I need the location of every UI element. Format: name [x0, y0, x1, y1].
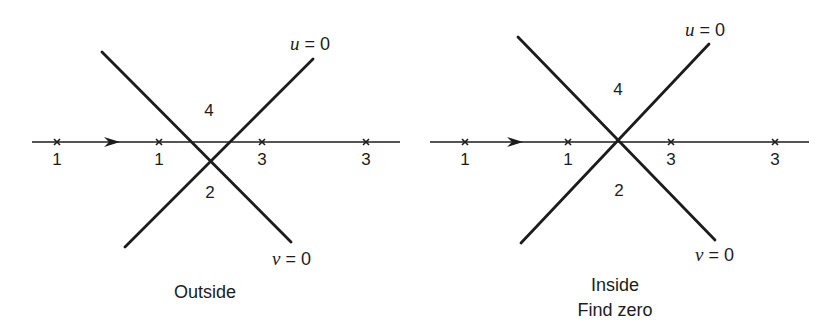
curve-v-zero: [102, 52, 291, 242]
point-label: 1: [52, 150, 61, 169]
curve-u-zero: [125, 59, 313, 247]
caption-find-zero: Find zero: [577, 300, 652, 320]
caption-outside: Outside: [174, 282, 236, 302]
point-label: 3: [666, 150, 675, 169]
point-label: 1: [460, 150, 469, 169]
curve-u-zero: [521, 44, 709, 243]
sample-point: 3: [361, 139, 370, 169]
panel-outside: 1 1 3 3 u = 0 v = 0 4 2 Outside: [32, 33, 400, 302]
label-v-zero: v = 0: [695, 244, 734, 265]
winding-number-diagram: 1 1 3 3 u = 0 v = 0 4 2 Outside: [0, 0, 836, 329]
point-label: 3: [257, 150, 266, 169]
panel-inside: 1 1 3 3 u = 0 v = 0 4 2 Inside Fi: [430, 19, 809, 320]
label-v-zero: v = 0: [272, 248, 311, 269]
point-label: 1: [154, 150, 163, 169]
point-label: 3: [361, 150, 370, 169]
sample-point: 1: [563, 139, 572, 169]
sample-point: 3: [257, 139, 266, 169]
point-label: 3: [770, 150, 779, 169]
label-u-zero: u = 0: [290, 33, 330, 54]
sample-points: 1 1 3 3: [52, 139, 370, 169]
point-label: 1: [563, 150, 572, 169]
region-label-4: 4: [613, 80, 622, 99]
caption-inside: Inside: [591, 275, 639, 295]
sample-point: 3: [666, 139, 675, 169]
label-u-zero: u = 0: [685, 19, 725, 40]
region-label-2: 2: [205, 183, 214, 202]
region-label-2: 2: [614, 181, 623, 200]
sample-point: 1: [460, 139, 469, 169]
region-label-4: 4: [204, 101, 213, 120]
sample-point: 1: [154, 139, 163, 169]
sample-point: 1: [52, 139, 61, 169]
sample-point: 3: [770, 139, 779, 169]
